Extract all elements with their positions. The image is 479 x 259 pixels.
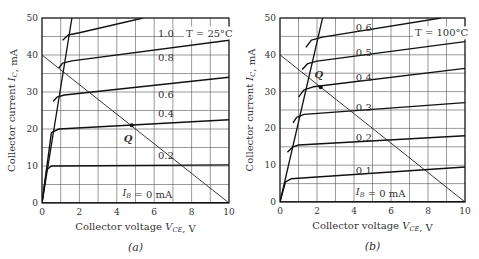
x-tick-label: 10 — [223, 207, 235, 217]
curve-label: 0.5 — [356, 47, 372, 58]
curve-label: 0.4 — [158, 108, 174, 119]
x-tick-label: 2 — [314, 206, 320, 216]
chart-a-svg: 024681001020304050Collector voltage VCE,… — [0, 0, 240, 259]
y-tick-label: 10 — [27, 161, 39, 171]
q-point-label: Q — [124, 133, 133, 144]
q-point-marker — [319, 85, 323, 89]
x-tick-label: 2 — [77, 207, 83, 217]
x-tick-label: 8 — [425, 206, 431, 216]
chart-panel-a: 024681001020304050Collector voltage VCE,… — [0, 0, 240, 259]
y-tick-label: 10 — [265, 160, 277, 170]
y-tick-label: 30 — [27, 87, 39, 97]
curve-label: 0.8 — [158, 52, 174, 63]
y-tick-label: 50 — [265, 13, 277, 23]
curve-label: 0.4 — [356, 72, 372, 83]
q-point-marker — [130, 123, 134, 127]
grid — [42, 18, 229, 203]
y-tick-label: 20 — [27, 124, 39, 134]
x-tick-label: 4 — [114, 207, 120, 217]
y-tick-label: 40 — [265, 50, 277, 60]
y-tick-label: 50 — [27, 13, 39, 23]
ib-curve-0.8 — [59, 40, 229, 68]
curve-label: 0.1 — [356, 165, 372, 176]
x-axis-label: Collector voltage VCE, V — [312, 220, 433, 233]
y-tick-label: 20 — [265, 123, 277, 133]
x-tick-label: 6 — [151, 207, 157, 217]
y-axis-label: Collector current IC, mA — [244, 48, 257, 172]
y-tick-label: 0 — [270, 197, 276, 207]
x-axis-label: Collector voltage VCE, V — [75, 221, 196, 234]
temperature-label: T = 100°C — [415, 27, 468, 38]
x-tick-label: 0 — [277, 206, 283, 216]
curve-label: 0.2 — [158, 150, 174, 161]
panel-caption: (b) — [365, 240, 381, 253]
y-axis-label: Collector current IC, mA — [6, 48, 19, 172]
curve-label: 0.6 — [356, 22, 372, 33]
chart-panel-b: 024681001020304050Collector voltage VCE,… — [240, 0, 479, 259]
y-tick-label: 40 — [27, 50, 39, 60]
panel-caption: (a) — [128, 241, 143, 254]
ib-curve-0.4 — [299, 68, 466, 97]
x-tick-label: 0 — [39, 207, 45, 217]
chart-b-svg: 024681001020304050Collector voltage VCE,… — [240, 0, 479, 259]
curve-label: IB = 0 mA — [355, 186, 406, 199]
curve-label: IB = 0 mA — [121, 187, 172, 200]
x-tick-label: 6 — [388, 206, 394, 216]
curve-label: 1.0 — [158, 28, 174, 39]
ib-curve-0.3 — [293, 103, 465, 123]
x-tick-label: 8 — [189, 207, 195, 217]
y-tick-label: 0 — [32, 198, 38, 208]
curve-label: 0.6 — [158, 89, 174, 100]
plot-area — [42, 18, 229, 203]
x-tick-label: 4 — [351, 206, 357, 216]
q-point-label: Q — [314, 69, 323, 80]
ib-curve-0.5 — [302, 42, 465, 70]
temperature-label: T = 25°C — [186, 28, 233, 39]
curve-label: 0.3 — [356, 102, 372, 113]
ib-curve-0.2 — [287, 136, 465, 153]
x-tick-label: 10 — [459, 206, 471, 216]
curve-label: 0.2 — [356, 132, 372, 143]
ib-curve-1.0 — [63, 18, 143, 40]
y-tick-label: 30 — [265, 87, 277, 97]
